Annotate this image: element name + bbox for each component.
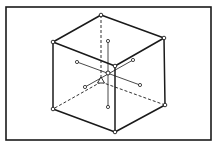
axis-end-node — [138, 83, 141, 86]
hidden-edges — [53, 15, 165, 109]
cube-edge — [53, 42, 115, 66]
origin-marker — [98, 77, 105, 83]
cube-edge — [164, 38, 165, 105]
axis-end-node — [131, 58, 134, 61]
cube-edge — [115, 38, 164, 66]
diagram-stage — [0, 0, 218, 148]
vertex-node-top-front — [113, 64, 117, 68]
vertex-nodes — [51, 13, 167, 134]
triangle-marker-icon — [98, 77, 105, 83]
cube-diagram — [0, 0, 218, 148]
axis-end-node — [106, 39, 109, 42]
axis-end-node — [106, 105, 109, 108]
vertex-node-bottom-right — [163, 103, 167, 107]
center-node — [106, 71, 110, 75]
hidden-edge — [101, 82, 165, 105]
vertex-node-bottom-front — [113, 130, 117, 134]
cube-edge — [53, 109, 115, 132]
vertex-node-top-right — [162, 36, 166, 40]
cube-edge — [53, 15, 101, 42]
vertex-node-bottom-left — [51, 107, 55, 111]
cube-edge — [115, 105, 165, 132]
cube-edge — [101, 15, 164, 38]
axis-end-node — [83, 85, 86, 88]
vertex-node-top-left — [51, 40, 55, 44]
hidden-edge — [53, 82, 101, 109]
vertex-node-top-back — [99, 13, 103, 17]
axis-end-node — [75, 60, 78, 63]
